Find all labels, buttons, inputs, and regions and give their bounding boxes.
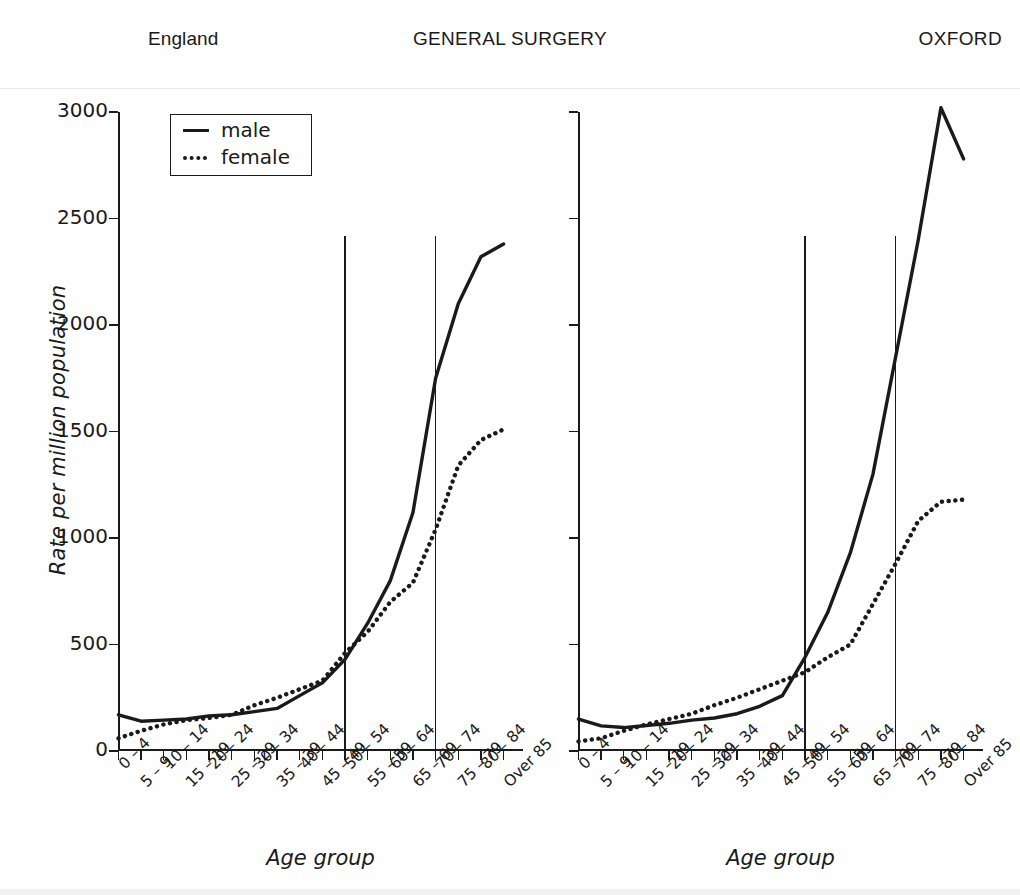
y-tick-mark [569,644,578,646]
y-tick-label: 3000 [38,98,108,122]
y-tick-label: 2500 [38,205,108,229]
top-divider [0,88,1020,89]
series-line-female [119,429,504,738]
x-axis-tick-labels: 0 – 45 – 910 – 1415 – 1920 – 2425 – 2930… [0,756,1020,846]
y-tick-mark [569,324,578,326]
y-tick-label: 1000 [38,524,108,548]
y-tick-mark [109,431,118,433]
y-tick-mark [569,111,578,113]
legend: male female [170,114,312,176]
series-line-female [579,500,964,742]
series-lines [118,112,523,751]
panel-england [118,112,523,751]
y-tick-mark [109,537,118,539]
y-tick-mark [569,537,578,539]
legend-label: male [221,118,271,142]
bottom-divider [0,889,1020,895]
dotted-line-icon [183,156,207,160]
y-tick-label: 2000 [38,311,108,335]
panel-oxford [578,112,983,751]
header-specialty-title: GENERAL SURGERY [0,28,1020,50]
y-tick-mark [109,111,118,113]
series-line-male [119,244,504,721]
x-axis-title-oxford: Age group [631,846,931,870]
y-tick-mark [569,750,578,752]
y-tick-mark [109,324,118,326]
series-lines [578,112,983,751]
y-tick-label: 500 [38,631,108,655]
header-comparator-label: OXFORD [919,28,1002,50]
legend-label: female [221,145,290,169]
series-line-male [579,108,964,728]
y-tick-mark [109,644,118,646]
y-tick-mark [109,750,118,752]
y-tick-mark [569,431,578,433]
y-tick-mark [569,218,578,220]
x-axis-title-england: Age group [171,846,471,870]
solid-line-icon [183,129,209,132]
y-tick-mark [109,218,118,220]
chart-header: England GENERAL SURGERY OXFORD [0,28,1020,58]
y-tick-label: 1500 [38,418,108,442]
figure: England GENERAL SURGERY OXFORD Rate per … [0,0,1020,895]
